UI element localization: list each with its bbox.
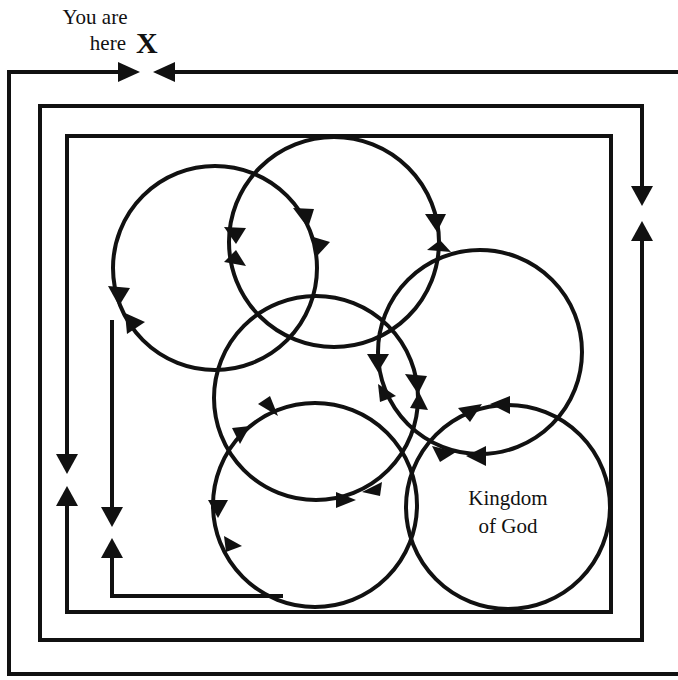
- circle-top-left: [113, 166, 317, 370]
- arrow-left-icon: [153, 62, 175, 82]
- start-label: You are here: [60, 4, 130, 56]
- start-marker: X: [136, 28, 158, 58]
- path-diagram: [0, 0, 678, 680]
- start-label-line2: here: [60, 30, 130, 56]
- goal-label: Kingdom of God: [448, 484, 568, 540]
- arrow-right-icon: [118, 62, 140, 82]
- arrow-icon: [108, 286, 130, 306]
- goal-label-line2: of God: [448, 512, 568, 540]
- arrow-icon: [208, 500, 228, 518]
- arrow-icon: [427, 240, 451, 252]
- circle-top-center: [229, 137, 439, 347]
- arrow-down-icon: [101, 507, 123, 527]
- arrow-icon: [425, 214, 446, 232]
- arrow-down-icon: [56, 454, 78, 474]
- arrow-icon: [378, 384, 396, 402]
- arrow-icon: [458, 404, 482, 422]
- arrow-icon: [490, 396, 510, 414]
- arrow-down-icon: [631, 186, 653, 206]
- arrow-up-icon: [56, 486, 78, 506]
- arrow-icon: [293, 208, 314, 228]
- goal-label-line1: Kingdom: [448, 484, 568, 512]
- arrow-icon: [466, 446, 486, 466]
- arrow-icon: [224, 250, 246, 266]
- arrow-up-icon: [631, 221, 653, 241]
- arrow-icon: [410, 392, 428, 410]
- arrow-up-icon: [101, 538, 123, 558]
- start-label-line1: You are: [60, 4, 130, 30]
- arrow-icon: [367, 354, 389, 372]
- inner-frame: [67, 136, 611, 612]
- arrow-icon: [224, 536, 242, 552]
